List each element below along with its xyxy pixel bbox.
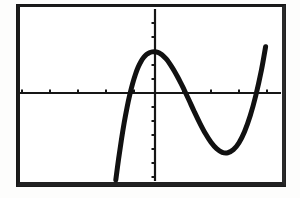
x-axis-ticks [22,90,267,93]
graph-plot [0,0,300,198]
y-axis-ticks [152,23,155,177]
calculator-graph-screenshot: Graphing calculator screen showing the g… [0,0,300,198]
cubic-curve [116,47,266,180]
